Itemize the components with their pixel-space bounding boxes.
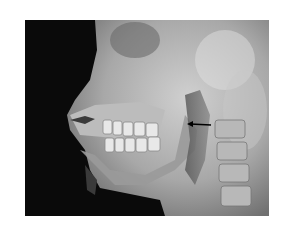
xray-image bbox=[25, 20, 269, 216]
xray-illustration bbox=[25, 20, 269, 216]
